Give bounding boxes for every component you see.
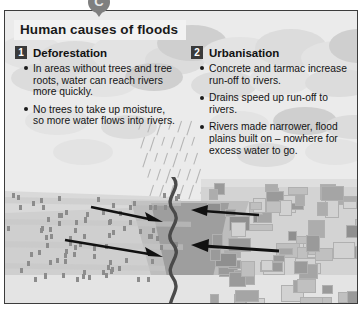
bullet-list-1: In areas without trees and tree roots, w… (15, 63, 175, 127)
bullet-dot-icon (200, 66, 204, 70)
column-title-2: Urbanisation (209, 47, 279, 59)
bullet-text: Rivers made narrower, flood plains built… (209, 121, 338, 155)
diagram-root: C (0, 0, 362, 309)
section-marker-badge: C (88, 0, 118, 17)
column-heading-2: 2 Urbanisation (191, 46, 351, 59)
bullet-dot-icon (200, 96, 204, 100)
column-heading-1: 1 Deforestation (15, 46, 175, 59)
title-plate: Human causes of floods (14, 20, 186, 40)
list-item: In areas without trees and tree roots, w… (24, 63, 175, 98)
bullet-text: No trees to take up moisture, so more wa… (33, 104, 175, 127)
text-layer: Human causes of floods 1 Deforestation I… (5, 11, 357, 303)
list-item: Rivers made narrower, flood plains built… (200, 121, 351, 156)
list-item: Concrete and tarmac increase run-off to … (200, 63, 351, 86)
bullet-dot-icon (24, 66, 28, 70)
diagram-frame: Human causes of floods 1 Deforestation I… (4, 10, 358, 304)
column-deforestation: 1 Deforestation In areas without trees a… (15, 46, 175, 133)
bullet-dot-icon (200, 125, 204, 129)
column-number-1: 1 (15, 46, 27, 59)
bullet-text: Concrete and tarmac increase run-off to … (209, 63, 347, 86)
bullet-list-2: Concrete and tarmac increase run-off to … (191, 63, 351, 156)
column-urbanisation: 2 Urbanisation Concrete and tarmac incre… (191, 46, 351, 162)
bullet-dot-icon (24, 107, 28, 111)
list-item: Drains speed up run-off to rivers. (200, 92, 351, 115)
column-number-2: 2 (191, 46, 203, 59)
bullet-text: In areas without trees and tree roots, w… (33, 63, 172, 97)
column-title-1: Deforestation (33, 47, 107, 59)
list-item: No trees to take up moisture, so more wa… (24, 104, 175, 127)
page-title: Human causes of floods (20, 22, 178, 37)
bullet-text: Drains speed up run-off to rivers. (209, 92, 328, 115)
